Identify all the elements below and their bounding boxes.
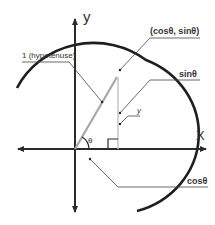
y-axis-label: y [83, 8, 91, 25]
y-leader-dot [119, 123, 121, 125]
cos-leader-dot [89, 158, 91, 160]
y-leader [120, 116, 140, 124]
cos-label: cosθ [187, 176, 207, 186]
point-label: (cosθ, sinθ) [150, 26, 199, 36]
unit-circle-arc [17, 43, 199, 211]
hypotenuse-label: 1 (hypotenuse) [22, 51, 75, 60]
x-axis-label: X [196, 128, 205, 143]
point-leader-dot [119, 69, 121, 71]
hypotenuse-line [75, 77, 117, 149]
right-angle-marker [108, 139, 118, 149]
theta-label: θ [88, 136, 92, 145]
point-leader [120, 38, 200, 70]
y-label: y [137, 106, 141, 115]
sin-leader-dot [119, 112, 121, 114]
sin-label: sinθ [179, 69, 197, 79]
hypotenuse-leader [22, 62, 102, 102]
hypotenuse-leader-dot [101, 101, 103, 103]
